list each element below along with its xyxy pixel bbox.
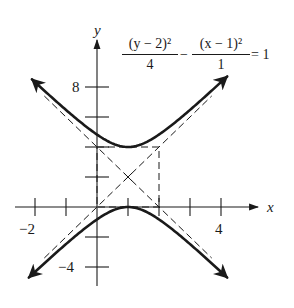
equation-term2: (x − 1)² 1 [192, 36, 250, 73]
term1-numerator: (y − 2)² [122, 36, 178, 55]
equation-term1: (y − 2)² 4 [122, 36, 178, 73]
x-tick-label-4: 4 [215, 222, 223, 237]
equation-minus: − [180, 48, 188, 62]
axes [15, 40, 258, 286]
center-marker [124, 173, 132, 181]
x-tick-label-minus2: −2 [19, 222, 35, 237]
y-tick-label-8: 8 [72, 80, 80, 95]
equation-rhs: = 1 [251, 48, 269, 62]
y-axis-label: y [94, 23, 101, 38]
x-axis-label: x [267, 200, 274, 215]
term2-numerator: (x − 1)² [192, 36, 250, 55]
term1-denominator: 4 [122, 55, 178, 73]
term2-denominator: 1 [192, 55, 250, 73]
y-tick-label-minus4: −4 [58, 260, 74, 275]
